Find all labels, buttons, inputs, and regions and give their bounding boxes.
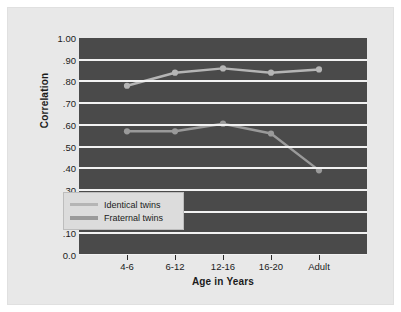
legend-label-identical: Identical twins [104,200,161,210]
y-tick-label: .80 [42,76,76,87]
data-point [124,83,130,89]
legend-label-fraternal: Fraternal twins [104,213,163,223]
legend-item-fraternal: Fraternal twins [70,211,177,224]
y-axis-tick-labels: 1.00.90.80.70.60.50.40.30.20.100.0 [40,0,76,312]
gridline [79,59,367,61]
gridline [79,124,367,126]
x-tick-mark [175,255,176,260]
gridline [79,189,367,191]
gridline [79,146,367,148]
gridline [79,80,367,82]
data-point [172,70,178,76]
y-tick-label: .40 [42,163,76,174]
data-point [220,65,226,71]
chart-legend: Identical twins Fraternal twins [63,192,184,230]
y-tick-label: 1.00 [42,33,76,44]
legend-swatch-fraternal [70,216,98,220]
x-tick-mark [271,255,272,260]
data-point [268,70,274,76]
y-tick-label: 0.0 [42,250,76,261]
x-axis-title: Age in Years [79,276,367,287]
y-tick-label: .60 [42,119,76,130]
x-tick-mark [127,255,128,260]
y-tick-label: .90 [42,54,76,65]
gridline [79,232,367,234]
legend-swatch-identical [70,203,98,206]
gridline [79,167,367,169]
legend-item-identical: Identical twins [70,198,177,211]
x-tick-label: Adult [289,261,349,272]
data-point [268,130,274,136]
y-tick-label: .50 [42,141,76,152]
y-tick-label: .70 [42,98,76,109]
data-point [124,128,130,134]
gridline [79,102,367,104]
data-point [316,66,322,72]
data-point [172,128,178,134]
x-tick-mark [223,255,224,260]
x-tick-mark [319,255,320,260]
chart-figure: Correlation 1.00.90.80.70.60.50.40.30.20… [0,0,401,312]
